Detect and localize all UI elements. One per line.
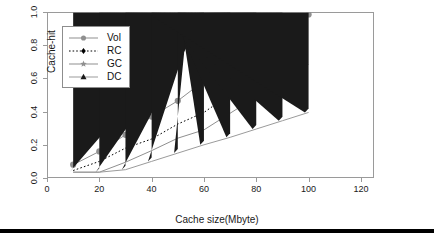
bottom-rule [0,229,434,233]
legend-item-dc: DC [68,70,122,83]
x-tickmark [204,178,205,182]
legend-marker-diamond-icon [68,45,99,57]
y-tickmark [43,178,47,179]
legend-label: Vol [107,32,121,44]
y-tickmark [43,145,47,146]
legend-label: DC [107,71,121,83]
y-tick-label: 0.4 [29,103,39,121]
legend-marker-circle-icon [68,32,99,44]
legend-item-gc: GC [68,57,122,70]
y-tick-label: 0.2 [29,136,39,154]
legend-item-vol: Vol [68,31,122,44]
legend-marker-triangle-icon [68,71,99,83]
chart-legend: Vol RC [62,26,130,88]
x-tickmark [99,178,100,182]
x-axis-label: Cache size(Mbyte) [0,214,434,225]
legend-label: RC [107,45,121,57]
x-tick-label: 120 [353,184,368,194]
legend-marker-star-icon [68,58,99,70]
y-tickmark [43,112,47,113]
x-tick-label: 60 [199,184,209,194]
x-tick-label: 0 [44,184,49,194]
x-tickmark [47,178,48,182]
x-tick-label: 80 [251,184,261,194]
y-tick-label: 0.8 [29,36,39,54]
y-axis-label: Cache-hit [46,0,57,107]
x-tickmark [309,178,310,182]
x-tickmark [152,178,153,182]
y-tick-label: 1.0 [29,3,39,21]
y-tick-label: 0.6 [29,69,39,87]
legend-label: GC [107,58,122,70]
chart-figure: 0204060801001200.00.20.40.60.81.0 Vol [0,0,434,239]
y-tick-label: 0.0 [29,169,39,187]
x-tickmark [256,178,257,182]
x-tick-label: 40 [147,184,157,194]
legend-item-rc: RC [68,44,122,57]
x-tick-label: 20 [94,184,104,194]
x-tickmark [361,178,362,182]
x-tick-label: 100 [301,184,316,194]
